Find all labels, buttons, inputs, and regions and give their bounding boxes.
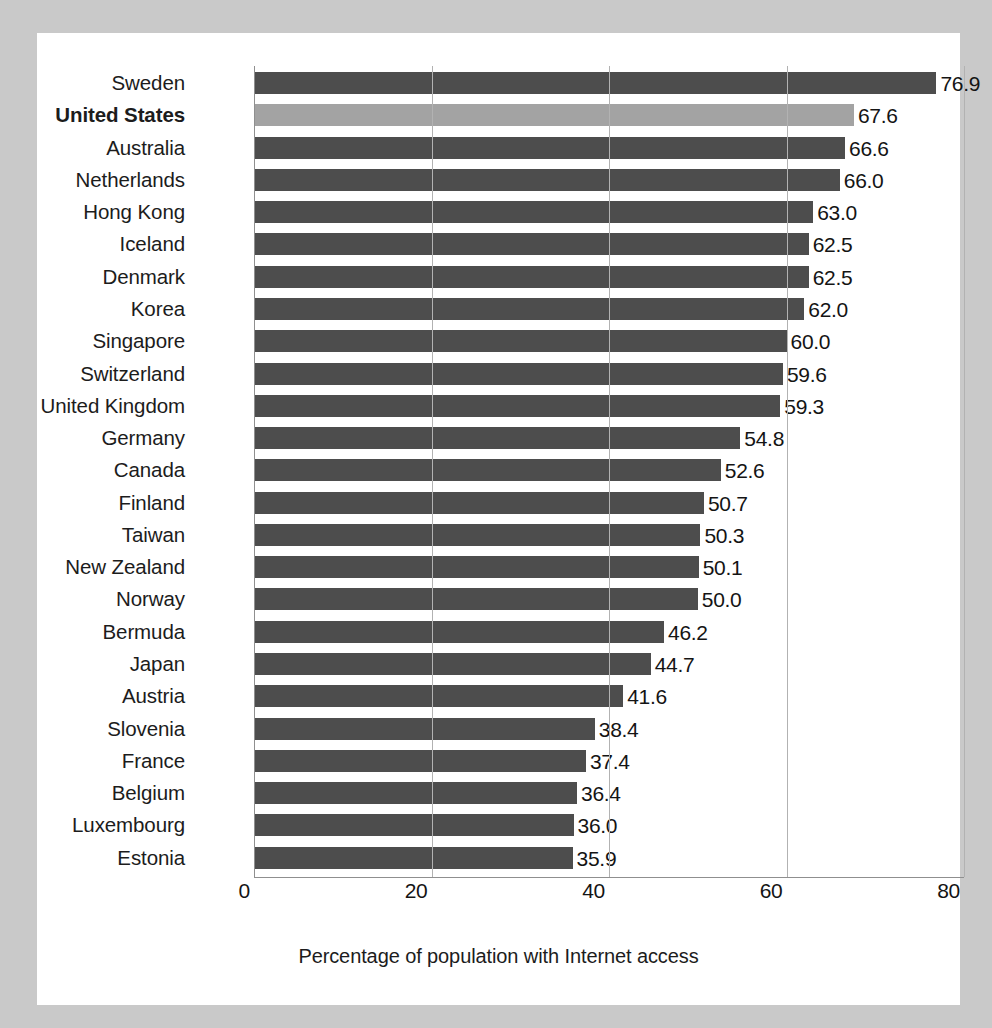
category-label-austria: Austria xyxy=(122,685,185,707)
bar-japan xyxy=(254,653,651,675)
bar-austria xyxy=(254,685,623,707)
bar-value-netherlands: 66.0 xyxy=(844,169,884,191)
bar-singapore xyxy=(254,330,787,352)
bar-taiwan xyxy=(254,524,700,546)
category-label-united-kingdom: United Kingdom xyxy=(41,395,185,417)
x-tick-label-80: 80 xyxy=(930,879,960,903)
bar-france xyxy=(254,750,586,772)
bar-united-kingdom xyxy=(254,395,780,417)
category-label-japan: Japan xyxy=(130,653,185,675)
category-label-sweden: Sweden xyxy=(112,72,185,94)
bar-united-states xyxy=(254,104,854,126)
bar-value-canada: 52.6 xyxy=(725,459,765,481)
category-label-taiwan: Taiwan xyxy=(122,524,185,546)
bar-denmark xyxy=(254,266,809,288)
category-label-belgium: Belgium xyxy=(112,782,185,804)
bar-finland xyxy=(254,492,704,514)
bar-value-united-kingdom: 59.3 xyxy=(784,395,824,417)
gridline-0 xyxy=(254,66,255,877)
category-label-slovenia: Slovenia xyxy=(107,718,185,740)
bar-value-new-zealand: 50.1 xyxy=(703,556,743,578)
bar-value-denmark: 62.5 xyxy=(813,266,853,288)
bar-iceland xyxy=(254,233,809,255)
figure-panel: SwedenUnited StatesAustraliaNetherlandsH… xyxy=(37,33,960,1005)
bar-value-iceland: 62.5 xyxy=(813,233,853,255)
bar-value-switzerland: 59.6 xyxy=(787,363,827,385)
bar-new-zealand xyxy=(254,556,699,578)
bar-value-korea: 62.0 xyxy=(808,298,848,320)
category-label-hong-kong: Hong Kong xyxy=(83,201,185,223)
bar-value-slovenia: 38.4 xyxy=(599,718,639,740)
bar-chart: SwedenUnited StatesAustraliaNetherlandsH… xyxy=(37,33,960,1005)
bar-belgium xyxy=(254,782,577,804)
category-label-bermuda: Bermuda xyxy=(103,621,185,643)
bar-netherlands xyxy=(254,169,840,191)
x-axis-title: Percentage of population with Internet a… xyxy=(37,945,960,968)
bar-switzerland xyxy=(254,363,783,385)
category-label-denmark: Denmark xyxy=(103,266,185,288)
bar-value-sweden: 76.9 xyxy=(940,72,980,94)
gridline-20 xyxy=(432,66,433,877)
bar-value-hong-kong: 63.0 xyxy=(817,201,857,223)
category-label-norway: Norway xyxy=(116,588,185,610)
bar-value-luxembourg: 36.0 xyxy=(578,814,618,836)
category-label-canada: Canada xyxy=(114,459,185,481)
category-axis-labels: SwedenUnited StatesAustraliaNetherlandsH… xyxy=(37,33,185,1005)
category-label-australia: Australia xyxy=(106,137,185,159)
bar-value-singapore: 60.0 xyxy=(791,330,831,352)
bar-korea xyxy=(254,298,804,320)
category-label-france: France xyxy=(122,750,185,772)
category-label-luxembourg: Luxembourg xyxy=(72,814,185,836)
plot-area: 76.967.666.666.063.062.562.562.060.059.6… xyxy=(217,33,960,1005)
category-label-singapore: Singapore xyxy=(92,330,185,352)
bar-value-germany: 54.8 xyxy=(744,427,784,449)
gridline-60 xyxy=(787,66,788,877)
bar-value-australia: 66.6 xyxy=(849,137,889,159)
category-label-iceland: Iceland xyxy=(120,233,185,255)
category-label-new-zealand: New Zealand xyxy=(65,556,185,578)
bar-value-bermuda: 46.2 xyxy=(668,621,708,643)
bar-slovenia xyxy=(254,718,595,740)
category-label-switzerland: Switzerland xyxy=(80,363,185,385)
bar-value-estonia: 35.9 xyxy=(577,847,617,869)
category-label-netherlands: Netherlands xyxy=(76,169,185,191)
x-tick-label-20: 20 xyxy=(398,879,428,903)
x-axis-baseline xyxy=(254,877,964,878)
bar-germany xyxy=(254,427,740,449)
category-label-finland: Finland xyxy=(118,492,185,514)
bar-estonia xyxy=(254,847,573,869)
category-label-korea: Korea xyxy=(131,298,185,320)
bar-australia xyxy=(254,137,845,159)
bar-hong-kong xyxy=(254,201,813,223)
bar-value-united-states: 67.6 xyxy=(858,104,898,126)
bar-canada xyxy=(254,459,721,481)
category-label-united-states: United States xyxy=(55,104,185,126)
bar-sweden xyxy=(254,72,936,94)
bar-value-japan: 44.7 xyxy=(655,653,695,675)
gridline-80 xyxy=(964,66,965,877)
bar-norway xyxy=(254,588,698,610)
bar-value-belgium: 36.4 xyxy=(581,782,621,804)
bar-value-taiwan: 50.3 xyxy=(704,524,744,546)
bar-value-norway: 50.0 xyxy=(702,588,742,610)
category-label-estonia: Estonia xyxy=(117,847,185,869)
x-tick-label-0: 0 xyxy=(220,879,250,903)
category-label-germany: Germany xyxy=(101,427,185,449)
bar-value-finland: 50.7 xyxy=(708,492,748,514)
x-tick-label-60: 60 xyxy=(753,879,783,903)
bar-luxembourg xyxy=(254,814,574,836)
bar-bermuda xyxy=(254,621,664,643)
bar-value-austria: 41.6 xyxy=(627,685,667,707)
x-tick-label-40: 40 xyxy=(575,879,605,903)
gridline-40 xyxy=(609,66,610,877)
